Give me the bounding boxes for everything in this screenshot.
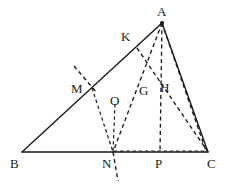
point-label-A: A: [157, 5, 166, 18]
point-label-G: G: [139, 84, 148, 97]
geometry-figure: A K M O G H B N P C: [0, 0, 227, 186]
point-label-M: M: [71, 82, 83, 95]
point-label-C: C: [207, 157, 216, 170]
point-label-N: N: [102, 157, 111, 170]
point-label-H: H: [160, 81, 169, 94]
line-K-to-C: [137, 48, 208, 152]
line-O-to-N: [113, 104, 115, 152]
point-label-P: P: [155, 157, 162, 170]
perpendicular-bisector-lower-ray: [113, 152, 118, 181]
vertex-dot-A: [160, 21, 164, 25]
point-label-K: K: [121, 30, 130, 43]
point-label-O: O: [110, 94, 119, 107]
point-label-B: B: [10, 157, 19, 170]
